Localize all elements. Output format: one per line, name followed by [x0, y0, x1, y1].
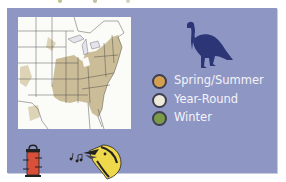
legend-label: Year-Round: [174, 91, 238, 107]
range-map: [18, 17, 131, 129]
range-map-panel: Spring/Summer Year-Round Winter: [7, 8, 277, 173]
bird-feeder-icon: [22, 143, 44, 179]
singing-bird-icon: [67, 141, 127, 181]
spring-summer-swatch-icon: [152, 74, 167, 89]
turkey-silhouette-icon: [183, 20, 235, 70]
top-decoration: [0, 0, 286, 7]
year-round-swatch-icon: [152, 93, 167, 108]
legend-label: Spring/Summer: [174, 72, 264, 88]
us-range-map-graphic: [18, 17, 131, 129]
winter-swatch-icon: [152, 111, 167, 126]
legend-label: Winter: [174, 109, 212, 125]
